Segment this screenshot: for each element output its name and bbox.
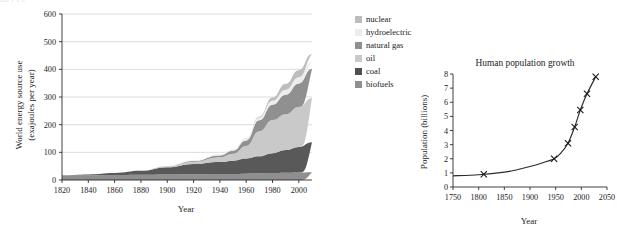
population-y-tick-6: 6 [444,98,448,107]
population-y-tick-1: 1 [444,169,448,178]
energy-x-tick-1840: 1840 [80,186,96,195]
legend-item-coal[interactable]: coal [355,65,411,77]
energy-x-tick-1900: 1900 [159,186,175,195]
legend-label-oil: oil [366,52,375,64]
population-plot-area: 0123456781750180018501900195020002050 [444,70,615,202]
population-chart-title: Human population growth [476,58,575,68]
legend-label-nuclear: nuclear [366,13,391,25]
legend-swatch-biofuels [355,81,362,88]
energy-y-axis-title-line1: World energy source use [14,61,24,150]
population-x-axis-title: Year [521,216,538,226]
population-x-tick-1900: 1900 [522,193,538,202]
energy-x-tick-1940: 1940 [212,186,228,195]
population-data-point [565,140,571,146]
population-y-axis-title: Population (billions) [419,95,429,169]
energy-y-tick-0: 0 [52,176,56,185]
legend-swatch-nuclear [355,16,362,23]
legend-label-hydroelectric: hydroelectric [366,26,411,38]
legend-swatch-natural-gas [355,42,362,49]
energy-y-axis-title-line2: (exajoules per year) [26,69,36,140]
population-y-tick-7: 7 [444,84,448,93]
population-x-tick-1750: 1750 [445,193,461,202]
energy-x-tick-1880: 1880 [133,186,149,195]
legend-swatch-coal [355,68,362,75]
legend-label-biofuels: biofuels [366,78,394,90]
human-population-growth-chart: Human population growth Population (bill… [417,54,617,229]
legend-item-oil[interactable]: oil [355,52,411,64]
legend-item-natural-gas[interactable]: natural gas [355,39,411,51]
population-x-tick-1950: 1950 [547,193,563,202]
legend-label-natural-gas: natural gas [366,39,403,51]
energy-y-tick-100: 100 [44,148,56,157]
population-data-point [584,91,590,97]
population-data-point [551,156,557,162]
population-y-tick-2: 2 [444,155,448,164]
population-data-point [572,124,578,130]
energy-chart-legend: nuclear hydroelectric natural gas oil co… [355,13,411,90]
legend-item-biofuels[interactable]: biofuels [355,78,411,90]
population-x-tick-1850: 1850 [496,193,512,202]
energy-y-tick-200: 200 [44,121,56,130]
population-x-tick-2000: 2000 [573,193,589,202]
legend-label-coal: coal [366,65,380,77]
energy-x-axis-title: Year [178,204,195,214]
population-data-point [593,74,599,80]
legend-swatch-oil [355,55,362,62]
legend-item-hydroelectric[interactable]: hydroelectric [355,26,411,38]
energy-x-tick-2000: 2000 [291,186,307,195]
legend-item-nuclear[interactable]: nuclear [355,13,411,25]
energy-source-use-chart: World energy source use (exajoules per y… [0,0,350,229]
energy-x-tick-1860: 1860 [106,186,122,195]
energy-y-tick-600: 600 [44,10,56,19]
energy-y-tick-400: 400 [44,65,56,74]
legend-swatch-hydroelectric [355,29,362,36]
population-x-tick-2050: 2050 [599,193,615,202]
energy-y-tick-500: 500 [44,38,56,47]
population-data-point [577,107,583,113]
population-y-tick-4: 4 [444,127,448,136]
figure-root: dd f f c World energy source use (exajou… [0,0,617,229]
population-x-tick-1800: 1800 [470,193,486,202]
energy-x-tick-1960: 1960 [238,186,254,195]
population-y-tick-8: 8 [444,70,448,79]
energy-x-tick-1980: 1980 [264,186,280,195]
energy-x-tick-1920: 1920 [185,186,201,195]
population-y-tick-0: 0 [444,183,448,192]
energy-plot-area: 0100200300400500600182018401860188019001… [44,10,312,195]
energy-y-tick-300: 300 [44,93,56,102]
population-y-tick-3: 3 [444,141,448,150]
population-y-tick-5: 5 [444,112,448,121]
energy-x-tick-1820: 1820 [54,186,70,195]
